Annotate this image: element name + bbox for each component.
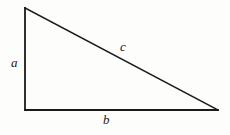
hypotenuse-line [25,8,218,110]
side-label-b: b [103,113,110,126]
side-label-a: a [11,56,18,69]
side-label-c: c [120,40,126,53]
triangle-drawing [0,0,230,135]
triangle-figure: a b c [0,0,230,135]
